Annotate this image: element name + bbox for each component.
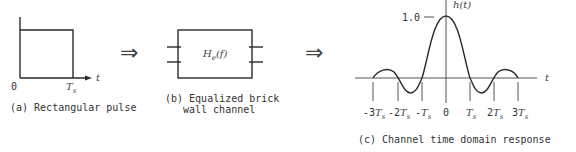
- pulse-outline: [20, 30, 73, 78]
- implies-arrow-icon: ⇒: [120, 40, 138, 65]
- t-axis-label: t: [96, 72, 101, 83]
- caption-b-line2: wall channel: [183, 104, 255, 115]
- tick-label: -2Ts: [388, 107, 411, 121]
- tick-label: 2Ts: [487, 107, 504, 121]
- panel-c-time-response: t h(t) 1.0 -3Ts -2Ts -Ts 0 Ts 2Ts 3Ts (c…: [355, 0, 551, 145]
- h-axis-label: h(t): [453, 0, 471, 10]
- t-axis-label: t: [545, 72, 550, 83]
- diagram-canvas: t 0 Ts (a) Rectangular pulse ⇒ He(f) (b)…: [0, 0, 576, 152]
- tick-labels: -3Ts -2Ts -Ts 0 Ts 2Ts 3Ts: [363, 107, 529, 121]
- origin-label: 0: [11, 81, 17, 92]
- panel-a-rectangular-pulse: t 0 Ts (a) Rectangular pulse: [10, 17, 136, 113]
- caption-a: (a) Rectangular pulse: [10, 102, 136, 113]
- tick-label: Ts: [466, 107, 477, 121]
- tick-label: -3Ts: [363, 107, 386, 121]
- implies-arrow-icon: ⇒: [305, 40, 323, 65]
- tick-label: 3Ts: [512, 107, 529, 121]
- panel-b-channel-block: He(f) (b) Equalized brick wall channel: [165, 30, 279, 115]
- peak-value-label: 1.0: [402, 12, 420, 23]
- tick-label: 0: [443, 107, 449, 118]
- caption-c: (c) Channel time domain response: [358, 134, 551, 145]
- t-axis-arrowhead-icon: [85, 76, 92, 81]
- tick-label: -Ts: [415, 107, 432, 121]
- transfer-function-label: He(f): [202, 48, 227, 62]
- pulse-end-label: Ts: [66, 81, 77, 95]
- caption-b-line1: (b) Equalized brick: [165, 93, 279, 104]
